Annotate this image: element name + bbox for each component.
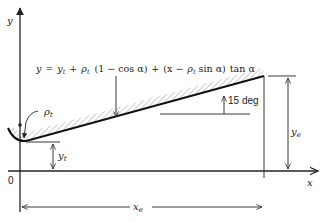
origin-label: 0	[8, 175, 14, 186]
throat-center-point	[18, 123, 22, 127]
ye-label: ye	[290, 126, 301, 139]
wall-hatching	[10, 68, 265, 140]
angle-label: 15 deg	[228, 95, 259, 106]
y-axis-label: y	[6, 15, 13, 26]
x-axis-label: x	[307, 177, 313, 188]
nozzle-contour-diagram: y x 0 ρt yt y=yt+ρt(1 − cos α)+(x −ρtsin…	[0, 0, 327, 222]
contour-equation: y=yt+ρt(1 − cos α)+(x −ρtsin α)tan α	[35, 63, 255, 76]
rho-t-label: ρt	[43, 106, 53, 119]
yt-label: yt	[57, 150, 67, 163]
